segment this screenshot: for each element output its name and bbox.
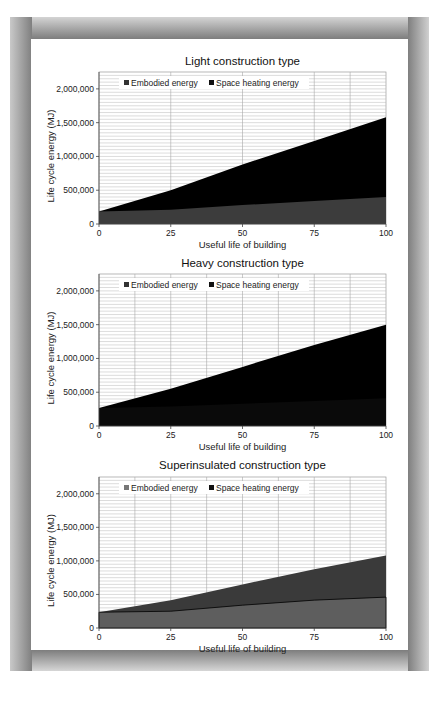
x-tick-label: 25 [166, 430, 176, 440]
y-tick-label: 0 [89, 219, 94, 229]
legend: Embodied energySpace heating energy [119, 76, 309, 89]
y-tick-label: 2,000,000 [56, 286, 94, 296]
x-axis-label: Useful life of building [199, 643, 287, 654]
x-tick-label: 50 [238, 228, 248, 238]
x-tick-label: 100 [379, 430, 393, 440]
y-tick-label: 1,500,000 [56, 522, 94, 532]
legend-swatch [209, 282, 214, 287]
x-tick-label: 25 [166, 632, 176, 642]
legend-swatch [124, 80, 129, 85]
x-axis-label: Useful life of building [199, 441, 287, 452]
legend-label: Embodied energy [131, 78, 198, 88]
x-tick-label: 50 [238, 632, 248, 642]
y-tick-label: 500,000 [63, 185, 94, 195]
legend-swatch [124, 282, 129, 287]
chart-3: Superinsulated construction typeEmbodied… [45, 459, 393, 654]
y-tick-label: 1,000,000 [56, 151, 94, 161]
y-tick-label: 0 [89, 421, 94, 431]
legend-label: Space heating energy [216, 483, 299, 493]
legend-label: Space heating energy [216, 280, 299, 290]
y-tick-label: 1,500,000 [56, 118, 94, 128]
x-tick-label: 0 [97, 632, 102, 642]
chart-title: Heavy construction type [181, 257, 304, 269]
chart-title: Light construction type [185, 55, 300, 67]
y-tick-label: 2,000,000 [56, 489, 94, 499]
y-tick-label: 500,000 [63, 387, 94, 397]
legend-swatch [209, 485, 214, 490]
chart-1: Light construction typeEmbodied energySp… [45, 55, 393, 250]
x-tick-label: 75 [310, 430, 320, 440]
y-axis-label: Life cycle energy (MJ) [45, 514, 56, 607]
x-tick-label: 25 [166, 228, 176, 238]
y-tick-label: 2,000,000 [56, 84, 94, 94]
legend-swatch [124, 485, 129, 490]
y-tick-label: 1,000,000 [56, 353, 94, 363]
legend-label: Embodied energy [131, 483, 198, 493]
charts-canvas: Light construction typeEmbodied energySp… [0, 0, 438, 705]
legend: Embodied energySpace heating energy [119, 278, 309, 291]
legend-label: Space heating energy [216, 78, 299, 88]
y-axis-label: Life cycle energy (MJ) [45, 110, 56, 203]
y-tick-label: 500,000 [63, 589, 94, 599]
y-tick-label: 1,000,000 [56, 556, 94, 566]
legend: Embodied energySpace heating energy [119, 481, 309, 494]
x-tick-label: 75 [310, 228, 320, 238]
x-tick-label: 100 [379, 632, 393, 642]
x-tick-label: 100 [379, 228, 393, 238]
chart-2: Heavy construction typeEmbodied energySp… [45, 257, 393, 452]
legend-swatch [209, 80, 214, 85]
chart-title: Superinsulated construction type [159, 459, 326, 471]
x-tick-label: 0 [97, 228, 102, 238]
legend-label: Embodied energy [131, 280, 198, 290]
x-tick-label: 0 [97, 430, 102, 440]
y-tick-label: 0 [89, 623, 94, 633]
x-tick-label: 50 [238, 430, 248, 440]
y-axis-label: Life cycle energy (MJ) [45, 312, 56, 405]
x-tick-label: 75 [310, 632, 320, 642]
x-axis-label: Useful life of building [199, 239, 287, 250]
y-tick-label: 1,500,000 [56, 320, 94, 330]
